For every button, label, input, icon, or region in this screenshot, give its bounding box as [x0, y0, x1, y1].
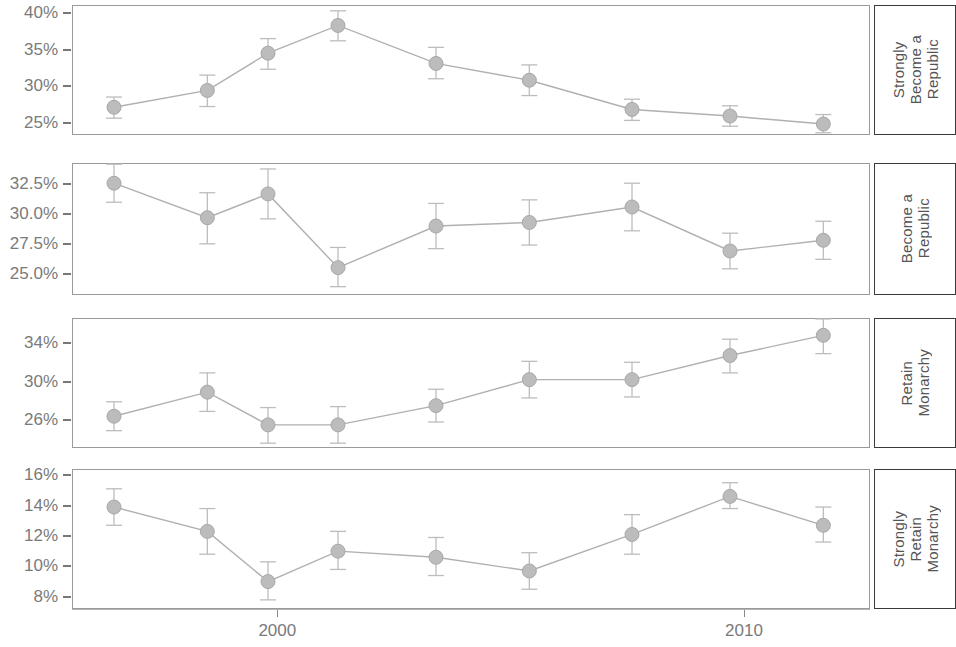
y-axis-tick-label: 25.0% — [10, 264, 58, 284]
x-axis-line — [72, 609, 870, 610]
plot-area — [72, 163, 870, 295]
plot-area — [72, 318, 870, 448]
facet-label-box: Strongly Become a Republic — [874, 5, 956, 135]
y-axis-tick-label: 30% — [24, 76, 58, 96]
y-axis-tick-label: 34% — [24, 333, 58, 353]
y-axis-tick-label: 16% — [24, 465, 58, 485]
y-axis-tick-mark — [63, 243, 71, 245]
facet-label-box: Strongly Retain Monarchy — [874, 469, 956, 609]
plot-area — [72, 5, 870, 135]
plot-area — [72, 469, 870, 609]
y-axis-tick-mark — [63, 505, 71, 507]
facet-label-text: Strongly Retain Monarchy — [890, 505, 941, 572]
y-axis-tick-label: 14% — [24, 496, 58, 516]
y-axis-tick-label: 30.0% — [10, 204, 58, 224]
facet-label-box: Retain Monarchy — [874, 318, 956, 448]
y-axis-tick-label: 40% — [24, 3, 58, 23]
y-axis-tick-label: 10% — [24, 556, 58, 576]
facet-label-box: Become a Republic — [874, 163, 956, 295]
y-axis-tick-mark — [63, 596, 71, 598]
y-axis-tick-label: 25% — [24, 113, 58, 133]
y-axis-tick-mark — [63, 381, 71, 383]
y-axis-tick-mark — [63, 122, 71, 124]
x-axis-tick-mark — [277, 610, 278, 617]
y-axis-tick-mark — [63, 565, 71, 567]
y-axis-tick-mark — [63, 419, 71, 421]
y-axis-tick-label: 8% — [33, 587, 58, 607]
y-axis-tick-label: 32.5% — [10, 174, 58, 194]
y-axis-tick-mark — [63, 183, 71, 185]
y-axis-tick-mark — [63, 12, 71, 14]
x-axis-tick-label: 2000 — [258, 621, 296, 641]
y-axis-tick-label: 35% — [24, 40, 58, 60]
y-axis-tick-mark — [63, 85, 71, 87]
y-axis-tick-label: 30% — [24, 372, 58, 392]
facet-label-text: Retain Monarchy — [898, 349, 932, 416]
x-axis-tick-label: 2010 — [725, 621, 763, 641]
facet-label-text: Become a Republic — [898, 194, 932, 263]
y-axis-tick-mark — [63, 273, 71, 275]
y-axis-tick-mark — [63, 535, 71, 537]
x-axis-tick-mark — [744, 610, 745, 617]
y-axis-tick-mark — [63, 49, 71, 51]
y-axis-tick-label: 27.5% — [10, 234, 58, 254]
y-axis-tick-mark — [63, 213, 71, 215]
facet-label-text: Strongly Become a Republic — [890, 35, 941, 104]
y-axis-tick-mark — [63, 474, 71, 476]
y-axis-tick-mark — [63, 342, 71, 344]
y-axis-tick-label: 12% — [24, 526, 58, 546]
y-axis-tick-label: 26% — [24, 410, 58, 430]
